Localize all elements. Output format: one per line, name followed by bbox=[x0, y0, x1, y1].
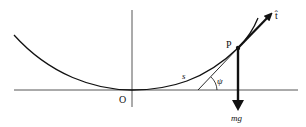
point-p-label: P bbox=[226, 39, 232, 50]
weight-arrowhead bbox=[232, 100, 244, 111]
angle-label: ψ bbox=[217, 76, 223, 86]
point-p-dot bbox=[236, 46, 240, 50]
arc-length-label: s bbox=[182, 71, 186, 81]
tangent-vector bbox=[238, 15, 270, 48]
origin-label: O bbox=[119, 94, 126, 105]
diagram-canvas: O P s ψ t̂ mg bbox=[0, 0, 306, 127]
weight-label: mg bbox=[231, 113, 242, 123]
tangent-label: t̂ bbox=[274, 10, 278, 21]
